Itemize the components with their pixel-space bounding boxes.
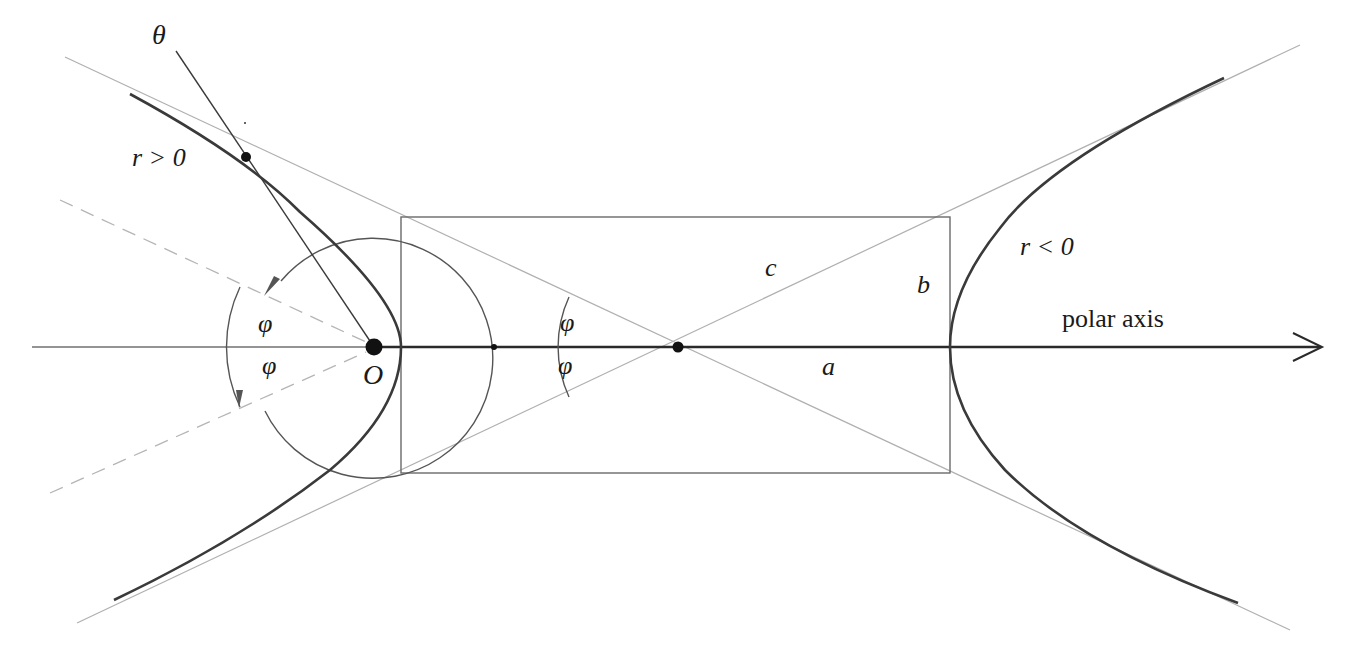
- point-on-curve: [241, 152, 251, 162]
- label-a: a: [822, 352, 835, 381]
- dashed-line-lower: [50, 352, 366, 493]
- arrow-down-left-icon: [264, 276, 280, 296]
- center-point: [673, 342, 684, 353]
- dashed-line-upper: [60, 200, 366, 342]
- label-phi-center-lower: φ: [558, 351, 572, 380]
- theta-ray: [176, 51, 374, 347]
- focus-point-O: [366, 339, 383, 356]
- label-c: c: [765, 253, 777, 282]
- label-phi-left-upper: φ: [258, 309, 272, 338]
- label-phi-center-upper: φ: [560, 308, 574, 337]
- small-dot: [244, 122, 246, 124]
- label-polar-axis: polar axis: [1062, 304, 1164, 333]
- point-circle-intersection: [491, 344, 497, 350]
- hyperbola-diagram: θ r > 0 r < 0 φ φ φ φ O c b a polar axis: [0, 0, 1354, 655]
- label-theta: θ: [152, 19, 166, 50]
- label-b: b: [917, 270, 930, 299]
- hyperbola-right-branch: [950, 78, 1238, 603]
- label-origin: O: [363, 359, 383, 390]
- label-r-negative: r < 0: [1020, 232, 1074, 261]
- label-r-positive: r > 0: [132, 143, 186, 172]
- label-phi-left-lower: φ: [262, 351, 276, 380]
